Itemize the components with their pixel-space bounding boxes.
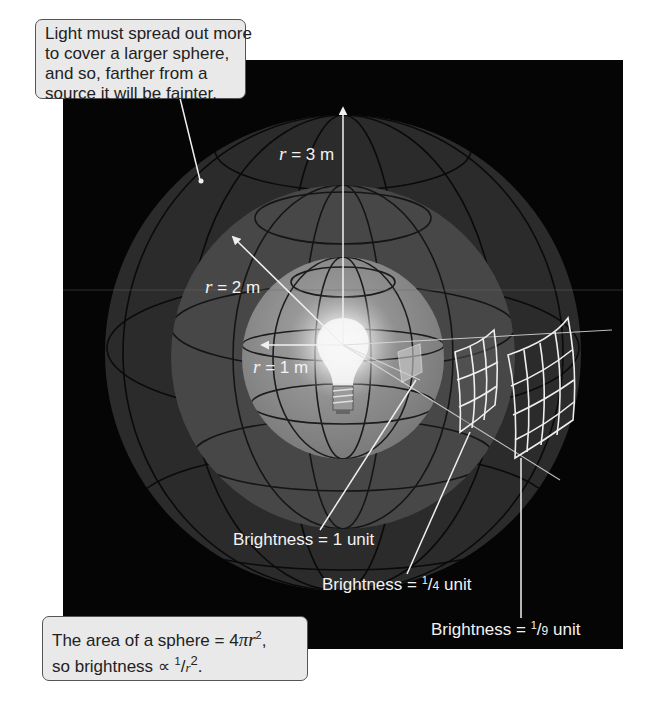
radius-label-r1: r = 1 m: [253, 356, 308, 378]
brightness-prefix: Brightness =: [233, 530, 333, 549]
radius-var: r: [248, 629, 255, 650]
callout-sphere-area: The area of a sphere = 4πr2, so brightne…: [42, 616, 308, 681]
brightness-unit: unit: [548, 620, 580, 639]
callout-spread-explanation: Light must spread out more to cover a la…: [35, 19, 246, 99]
brightness-prefix: Brightness =: [322, 575, 422, 594]
brightness-value: 1: [333, 530, 342, 549]
radius-value: = 2 m: [212, 278, 260, 297]
formula-text: so brightness: [52, 657, 158, 676]
fraction-numerator: 1: [531, 619, 537, 631]
exponent: 2: [191, 653, 198, 668]
proportional-symbol: ∝: [158, 657, 170, 676]
brightness-prefix: Brightness =: [431, 620, 531, 639]
inverse-square-diagram: [0, 0, 647, 705]
brightness-label-r1: Brightness = 1 unit: [233, 530, 374, 550]
fraction-numerator: 1: [422, 574, 428, 586]
punctuation: ,: [262, 631, 267, 650]
radius-value: = 1 m: [260, 358, 308, 377]
callout-area-formula: The area of a sphere = 4πr2,: [52, 625, 299, 651]
radius-label-r2: r = 2 m: [205, 276, 260, 298]
radius-value: = 3 m: [286, 145, 334, 164]
brightness-label-r3: Brightness = 1/9 unit: [431, 619, 580, 640]
callout-line: to cover a larger sphere,: [45, 44, 237, 64]
callout-line: Light must spread out more: [45, 24, 237, 44]
punctuation: .: [198, 657, 203, 676]
callout-proportionality: so brightness ∝ 1/r2.: [52, 651, 299, 678]
radius-label-r3: r = 3 m: [279, 143, 334, 165]
formula-text: The area of a sphere = 4: [52, 631, 239, 650]
brightness-unit: unit: [342, 530, 374, 549]
brightness-label-r2: Brightness = 1/4 unit: [322, 574, 471, 595]
pi-symbol: π: [239, 629, 249, 650]
callout-line: and so, farther from a: [45, 64, 237, 84]
callout-line: source it will be fainter.: [45, 84, 237, 104]
brightness-unit: unit: [439, 575, 471, 594]
